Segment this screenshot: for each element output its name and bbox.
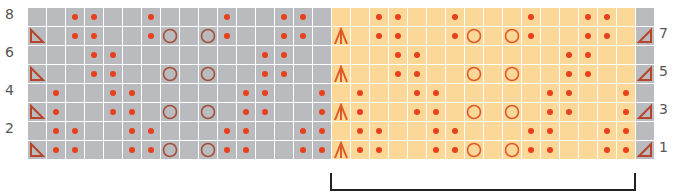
chart-cell [370,8,388,26]
chart-cell [332,122,350,140]
chart-cell [85,141,103,159]
purl-dot-icon [560,65,578,83]
chart-cell [351,84,369,102]
purl-dot-icon [579,65,597,83]
chart-cell [256,141,274,159]
row-label-8: 8 [5,6,14,22]
chart-cell [85,8,103,26]
purl-dot-icon [427,103,445,121]
chart-cell [237,65,255,83]
purl-dot-icon [408,46,426,64]
chart-cell [66,27,84,45]
chart-cell [294,103,312,121]
chart-cell [636,84,654,102]
chart-cell [465,46,483,64]
chart-cell [256,8,274,26]
chart-cell [484,84,502,102]
chart-cell [617,141,635,159]
chart-cell [465,122,483,140]
chart-cell [218,65,236,83]
chart-row-8 [28,8,655,27]
chart-cell [237,103,255,121]
purl-dot-icon [446,27,464,45]
purl-dot-icon [617,103,635,121]
chart-cell [598,141,616,159]
chart-cell [332,65,350,83]
purl-dot-icon [541,122,559,140]
chart-cell [522,141,540,159]
chart-cell [256,122,274,140]
chart-cell [408,8,426,26]
purl-dot-icon [370,122,388,140]
chart-cell [142,122,160,140]
chart-cell [351,103,369,121]
chart-cell [47,84,65,102]
chart-cell [484,27,502,45]
chart-cell [522,27,540,45]
purl-dot-icon [123,103,141,121]
purl-dot-icon [446,122,464,140]
chart-cell [313,46,331,64]
purl-dot-icon [104,103,122,121]
chart-cell [522,8,540,26]
chart-cell [427,27,445,45]
chart-cell [503,122,521,140]
chart-cell [408,84,426,102]
chart-cell [294,46,312,64]
chart-cell [256,46,274,64]
chart-cell [484,141,502,159]
chart-cell [28,84,46,102]
chart-cell [598,8,616,26]
chart-cell [161,141,179,159]
chart-cell [161,8,179,26]
chart-cell [104,46,122,64]
chart-cell [142,103,160,121]
purl-dot-icon [142,27,160,45]
chart-cell [598,103,616,121]
chart-cell [484,8,502,26]
purl-dot-icon [47,141,65,159]
chart-cell [180,65,198,83]
purl-dot-icon [85,8,103,26]
purl-dot-icon [598,122,616,140]
chart-cell [256,103,274,121]
yarn-over-circle-icon [503,27,521,45]
chart-cell [560,122,578,140]
yarn-over-circle-icon [503,141,521,159]
chart-cell [104,84,122,102]
chart-cell [313,122,331,140]
chart-cell [104,122,122,140]
left-triangle-decrease-icon [28,141,46,159]
chart-cell [484,122,502,140]
chart-cell [275,122,293,140]
chart-cell [579,141,597,159]
chart-cell [351,27,369,45]
purl-dot-icon [123,141,141,159]
left-triangle-decrease-icon [28,65,46,83]
yarn-over-circle-icon [161,65,179,83]
chart-cell [28,8,46,26]
chart-cell [579,65,597,83]
chart-cell [408,141,426,159]
chart-cell [446,84,464,102]
purl-dot-icon [560,46,578,64]
chart-cell [85,122,103,140]
chart-cell [218,103,236,121]
chart-cell [313,141,331,159]
purl-dot-icon [275,27,293,45]
chart-cell [66,141,84,159]
chart-cell [636,141,654,159]
chart-cell [408,46,426,64]
purl-dot-icon [237,84,255,102]
purl-dot-icon [427,141,445,159]
chart-row-4 [28,84,655,103]
purl-dot-icon [104,46,122,64]
chart-cell [560,8,578,26]
chart-cell [66,46,84,64]
chart-cell [237,27,255,45]
chart-cell [636,27,654,45]
chart-cell [617,46,635,64]
purl-dot-icon [617,122,635,140]
chart-cell [617,84,635,102]
purl-dot-icon [351,122,369,140]
